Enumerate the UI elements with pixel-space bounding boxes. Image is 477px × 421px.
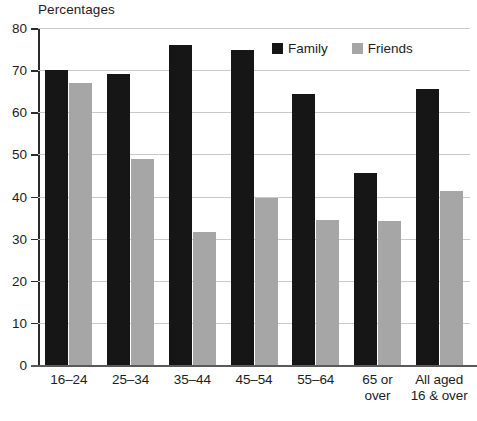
y-tick-label-30: 30 [0, 231, 27, 246]
bar-family-6 [416, 89, 439, 365]
bar-family-4 [292, 94, 315, 365]
y-axis-title: Percentages [38, 2, 115, 17]
x-axis-label-6: All aged16 & over [404, 372, 474, 404]
bar-family-1 [107, 74, 130, 365]
legend-label-family: Family [288, 41, 328, 56]
x-axis-label-5: 65 orover [343, 372, 413, 404]
bar-friends-4 [316, 220, 339, 365]
bar-family-5 [354, 173, 377, 365]
y-tick-label-40: 40 [0, 189, 27, 204]
bar-friends-0 [69, 83, 92, 365]
x-axis-label-0: 16–24 [34, 372, 104, 388]
bar-friends-1 [131, 159, 154, 365]
gridline-50 [38, 154, 470, 155]
legend: FamilyFriends [272, 41, 413, 56]
y-tick-label-0: 0 [0, 358, 27, 373]
y-tick-label-50: 50 [0, 147, 27, 162]
y-tick-label-80: 80 [0, 21, 27, 36]
bar-family-3 [231, 50, 254, 365]
x-axis-label-2: 35–44 [157, 372, 227, 388]
legend-swatch-icon-family [272, 43, 283, 54]
x-axis-line [31, 365, 477, 367]
y-tick-label-60: 60 [0, 105, 27, 120]
x-axis-label-3: 45–54 [219, 372, 289, 388]
bar-family-0 [45, 70, 68, 365]
gridline-60 [38, 112, 470, 113]
gridline-70 [38, 70, 470, 71]
bar-family-2 [169, 45, 192, 365]
legend-swatch-icon-friends [352, 43, 363, 54]
plot-area [38, 28, 470, 365]
y-tick-label-70: 70 [0, 63, 27, 78]
scan-artifact [0, 414, 477, 421]
legend-item-friends[interactable]: Friends [352, 41, 413, 56]
x-axis-label-1: 25–34 [96, 372, 166, 388]
legend-label-friends: Friends [368, 41, 413, 56]
legend-item-family[interactable]: Family [272, 41, 328, 56]
bar-friends-6 [440, 191, 463, 365]
bar-friends-2 [193, 232, 216, 365]
y-tick-label-10: 10 [0, 315, 27, 330]
x-axis-label-4: 55–64 [281, 372, 351, 388]
bar-friends-5 [378, 221, 401, 365]
gridline-80 [38, 28, 470, 29]
bar-friends-3 [255, 198, 278, 365]
bar-chart: Percentages 80706050403020100 16–2425–34… [0, 0, 477, 421]
y-tick-label-20: 20 [0, 273, 27, 288]
